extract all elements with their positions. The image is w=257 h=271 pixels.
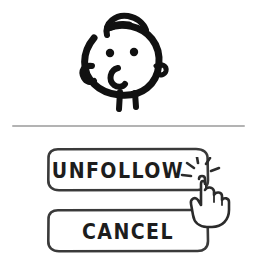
cancel-button[interactable]: CANCEL	[45, 207, 211, 254]
unfollow-button[interactable]: UNFOLLOW	[45, 146, 211, 193]
doodle-face-avatar-icon	[64, 8, 174, 116]
left-eye-dot	[106, 49, 114, 57]
cancel-button-label: CANCEL	[45, 204, 211, 257]
horizontal-divider	[12, 125, 245, 127]
avatar	[64, 8, 174, 116]
avatar-area	[0, 0, 257, 122]
unfollow-confirmation-dialog: UNFOLLOW CANCEL	[0, 0, 257, 271]
unfollow-button-label: UNFOLLOW	[45, 143, 211, 196]
cancel-button-outline	[45, 207, 211, 254]
unfollow-button-outline	[45, 146, 211, 193]
right-eye-dot	[130, 48, 138, 56]
